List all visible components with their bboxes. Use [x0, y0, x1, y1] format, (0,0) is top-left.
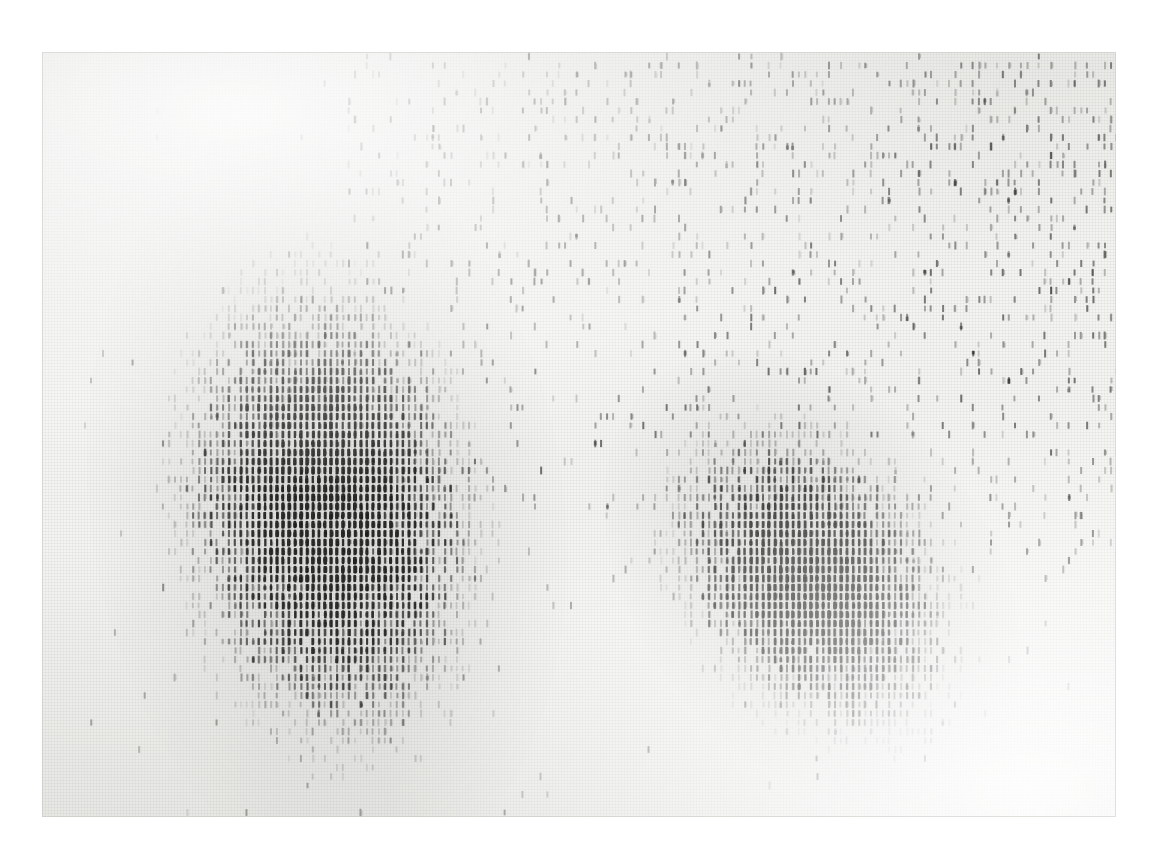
scatter-plot-canvas	[42, 52, 1116, 817]
figure-page	[0, 0, 1175, 853]
scanned-paper-sheet	[42, 52, 1116, 817]
